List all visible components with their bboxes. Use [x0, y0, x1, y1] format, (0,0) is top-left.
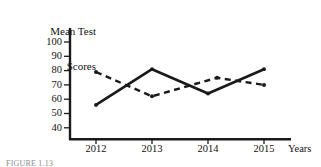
figure-caption: FIGURE 1.13: [6, 159, 53, 167]
x-axis-title: Years: [288, 143, 311, 154]
solid-line-series: [96, 69, 264, 105]
x-tick-label-2013: 2013: [132, 143, 172, 154]
chart-figure: Mean Test Scores 100 90 80 70 60 50 40: [0, 0, 321, 167]
plot-area: [0, 0, 321, 167]
dashed-line-series: [96, 72, 264, 96]
solid-line-markers: [94, 67, 266, 107]
x-tick-label-2014: 2014: [188, 143, 228, 154]
x-tick-label-2015: 2015: [244, 143, 284, 154]
dashed-line-markers: [94, 70, 266, 98]
x-tick-label-2012: 2012: [76, 143, 116, 154]
